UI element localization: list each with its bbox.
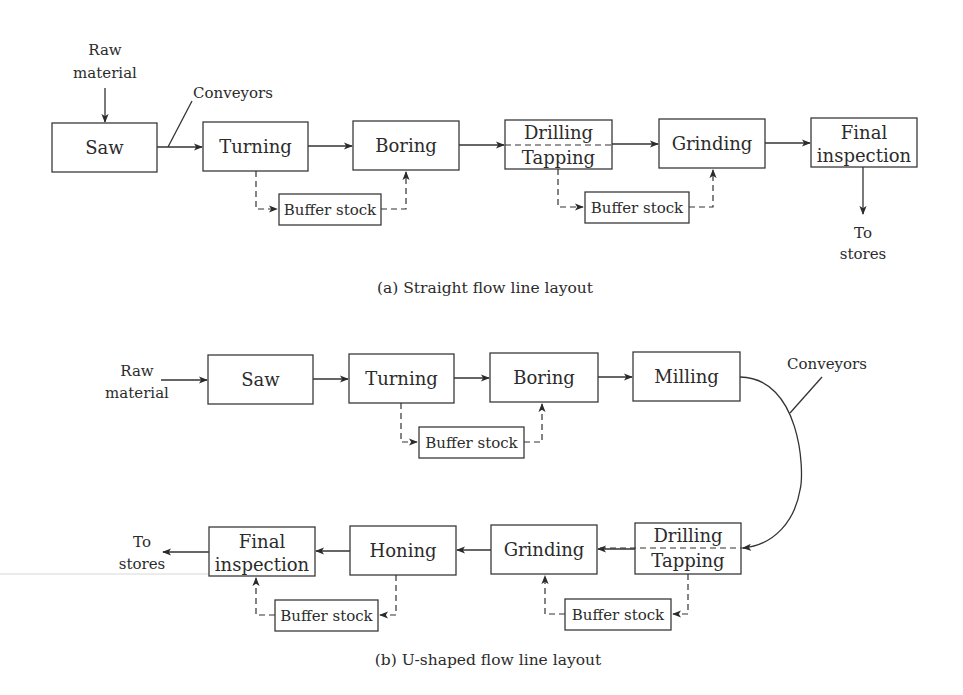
buffer-stock-label: Buffer stock: [591, 199, 684, 217]
station-saw: Saw: [208, 355, 313, 404]
buffer-in-dashed-arrow-icon: [380, 575, 396, 615]
raw-material-label-line1: Raw: [88, 41, 122, 59]
station-turning: Turning: [349, 354, 454, 403]
station-label: Turning: [365, 368, 438, 389]
conveyors-label: Conveyors: [787, 355, 867, 373]
buffer-stock: Buffer stock: [585, 192, 689, 223]
conveyors-leader-line: [168, 101, 192, 147]
to-stores-label-line1: To: [854, 224, 872, 242]
buffer-out-dashed-arrow-icon: [256, 578, 275, 615]
station-label-line2: inspection: [215, 554, 310, 575]
buffer-in-dashed-arrow-icon: [673, 574, 688, 614]
conveyors-label: Conveyors: [193, 84, 273, 102]
station-label-line2: inspection: [817, 145, 912, 166]
station-label: Saw: [85, 137, 124, 158]
station-label-line2: Tapping: [651, 550, 724, 571]
to-stores-label-line2: stores: [119, 555, 166, 573]
caption-b: (b) U-shaped flow line layout: [375, 651, 602, 669]
buffer-stock-label: Buffer stock: [284, 201, 377, 219]
station-final-inspection: Finalinspection: [209, 527, 315, 576]
to-stores-label-line1: To: [133, 533, 151, 551]
station-honing: Honing: [350, 526, 456, 575]
station-grinding: Grinding: [659, 119, 765, 168]
raw-material-label-line2: material: [73, 64, 137, 82]
station-final-inspection: Finalinspection: [811, 118, 917, 167]
caption-a: (a) Straight flow line layout: [377, 279, 594, 297]
buffer-stock-label: Buffer stock: [425, 434, 518, 452]
station-label: Milling: [654, 366, 719, 387]
buffer-out-dashed-arrow-icon: [381, 172, 406, 209]
station-label-line1: Drilling: [524, 122, 593, 143]
station-label: Grinding: [504, 539, 585, 560]
station-boring: Boring: [490, 353, 598, 402]
buffer-in-dashed-arrow-icon: [558, 169, 583, 207]
station-boring: Boring: [353, 121, 459, 170]
station-label-line2: Tapping: [522, 147, 595, 168]
conveyors-leader-line: [790, 377, 822, 413]
station-label-line1: Final: [841, 122, 888, 143]
station-saw: Saw: [52, 123, 157, 172]
buffer-out-dashed-arrow-icon: [524, 404, 542, 442]
station-label: Honing: [370, 540, 437, 561]
buffer-out-dashed-arrow-icon: [545, 576, 565, 614]
buffer-stock: Buffer stock: [279, 194, 381, 225]
u-shaped-flow-line-panel: Raw material Conveyors To stores SawTurn…: [105, 352, 867, 669]
station-label: Saw: [241, 369, 280, 390]
buffer-out-dashed-arrow-icon: [689, 170, 713, 207]
u-conveyor-curve-arrow-icon: [740, 377, 801, 548]
raw-material-label-line2: material: [105, 384, 169, 402]
station-label: Boring: [513, 367, 575, 388]
station-milling: Milling: [633, 352, 740, 401]
station-label-line1: Drilling: [653, 525, 722, 546]
flow-line-layout-diagram: Raw material Conveyors SawTurningBoringD…: [0, 0, 963, 695]
buffer-stock: Buffer stock: [275, 600, 378, 631]
buffer-in-dashed-arrow-icon: [401, 403, 417, 442]
buffer-in-dashed-arrow-icon: [256, 171, 277, 209]
station-grinding: Grinding: [491, 525, 597, 574]
buffer-stock-label: Buffer stock: [572, 606, 665, 624]
station-label: Grinding: [672, 133, 753, 154]
station-label: Boring: [375, 135, 437, 156]
station-turning: Turning: [203, 122, 308, 171]
straight-flow-line-panel: Raw material Conveyors SawTurningBoringD…: [52, 41, 917, 297]
to-stores-label-line2: stores: [840, 245, 887, 263]
buffer-stock-label: Buffer stock: [280, 607, 373, 625]
raw-material-label-line1: Raw: [120, 362, 154, 380]
station-label-line1: Final: [239, 531, 286, 552]
buffer-stock: Buffer stock: [565, 599, 671, 630]
buffer-stock: Buffer stock: [419, 427, 524, 458]
station-label: Turning: [219, 136, 292, 157]
